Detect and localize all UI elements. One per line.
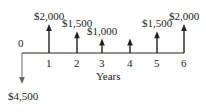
arrowhead-icon-0 [19,77,25,84]
tick-label-1: 1 [46,57,52,69]
arrowhead-icon-2 [74,31,80,38]
arrowhead-icon-6 [181,24,187,31]
cash-flow-label-1: $2,000 [34,10,65,22]
arrowhead-icon-4 [127,39,133,46]
cash-flow-label-0: $4,500 [8,90,39,102]
tick-label-3: 3 [99,57,105,69]
tick-label-2: 2 [74,57,80,69]
cash-flow-label-3: $1,000 [87,25,118,37]
arrowhead-icon-1 [46,24,52,31]
arrowhead-icon-3 [99,39,105,46]
tick-label-0: 0 [18,37,24,49]
cash-flow-diagram: 0 1 2 3 4 5 6 Years $4,500$2,000$1,500$1… [0,0,206,112]
tick-label-5: 5 [154,57,160,69]
axis-label: Years [96,70,121,82]
cash-flow-label-6: $2,000 [169,10,200,22]
arrowhead-icon-5 [154,31,160,38]
tick-label-4: 4 [127,57,133,69]
tick-label-6: 6 [181,57,187,69]
